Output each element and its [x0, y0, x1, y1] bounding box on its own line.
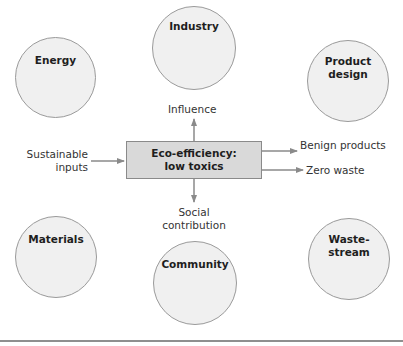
label-influence: Influence [168, 103, 216, 116]
node-waste-stream-line2: stream [309, 246, 389, 259]
label-sustainable-line1: Sustainable [20, 148, 88, 161]
node-product-design-line1: Product [308, 55, 388, 68]
node-materials: Materials [15, 216, 97, 298]
center-box: Eco-efficiency: low toxics [126, 141, 262, 179]
node-product-design-line2: design [308, 68, 388, 81]
node-energy-label: Energy [16, 54, 95, 67]
node-community-label: Community [154, 258, 236, 271]
bottom-rule [0, 340, 403, 342]
node-community: Community [153, 241, 237, 325]
node-product-design: Product design [307, 40, 389, 122]
node-waste-stream-line1: Waste- [309, 233, 389, 246]
node-industry-label: Industry [153, 20, 235, 33]
label-social-line1: Social [150, 206, 238, 219]
center-line1: Eco-efficiency: [151, 147, 237, 160]
label-benign-products: Benign products [300, 139, 386, 152]
node-materials-label: Materials [16, 233, 96, 246]
label-zero-waste: Zero waste [306, 164, 365, 177]
label-sustainable-inputs: Sustainable inputs [20, 148, 88, 174]
label-sustainable-line2: inputs [20, 161, 88, 174]
label-social-line2: contribution [150, 219, 238, 232]
node-industry: Industry [152, 6, 236, 90]
label-social-contribution: Social contribution [150, 206, 238, 232]
center-line2: low toxics [164, 160, 223, 173]
node-energy: Energy [15, 37, 96, 118]
node-waste-stream: Waste- stream [308, 218, 390, 300]
